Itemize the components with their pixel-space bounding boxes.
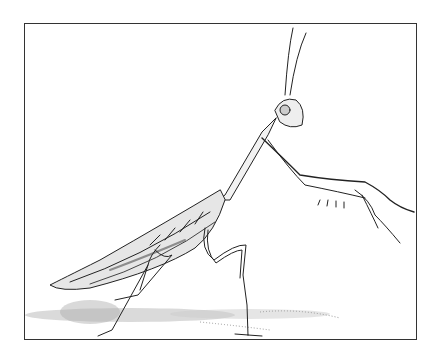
mantis-foreleg [262, 138, 414, 212]
antenna [290, 33, 306, 95]
mantis-abdomen [50, 190, 225, 289]
mantis-illustration [0, 0, 441, 364]
mantis-thorax [218, 118, 276, 200]
ground-shadow [25, 300, 340, 330]
